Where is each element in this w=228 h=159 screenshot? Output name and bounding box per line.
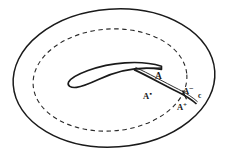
label-c: c	[198, 92, 201, 100]
label-A-minus: A−	[183, 87, 189, 96]
label-c-text: c	[198, 91, 201, 100]
label-A-plus-superscript: +	[183, 102, 187, 109]
label-A-dot: A▪	[143, 92, 149, 101]
figure-canvas: A A▪ A− c A+	[0, 0, 228, 159]
label-A-dot-text: A	[143, 91, 149, 101]
label-A-minus-superscript: −	[189, 85, 194, 93]
label-A-dot-superscript: ▪	[150, 91, 152, 98]
diagram-svg	[0, 0, 228, 159]
background	[0, 0, 228, 159]
label-A-text: A	[155, 71, 162, 81]
label-A-plus: A+	[177, 103, 183, 112]
label-A: A	[155, 72, 162, 82]
